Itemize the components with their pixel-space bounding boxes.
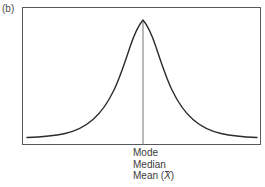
x-letter: X (164, 170, 171, 181)
distribution-curve-svg (22, 7, 261, 145)
mean-prefix: Mean ( (133, 170, 164, 181)
overbar (165, 171, 170, 172)
label-mean: Mean (X) (133, 170, 174, 182)
x-bar-symbol: X (164, 170, 171, 181)
mean-suffix: ) (171, 170, 174, 181)
normal-curve-path (27, 20, 257, 138)
figure-panel: (b) Mode Median Mean (X) (0, 0, 265, 187)
label-mode: Mode (133, 147, 158, 159)
panel-label: (b) (2, 3, 14, 15)
statistics-labels: Mode Median Mean (X) (133, 147, 174, 182)
label-median: Median (133, 159, 166, 171)
